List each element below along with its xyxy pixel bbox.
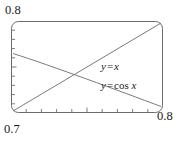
x-axis-tick-marks	[26, 108, 148, 113]
y-axis-max-label: 0.8	[5, 4, 21, 17]
plot-screenshot: 0.8 0.7 0.8	[0, 0, 181, 143]
plot-area	[11, 21, 163, 113]
curve-label-yx-operator: =	[106, 60, 114, 72]
curve-label-ycos-function: cos	[114, 79, 129, 91]
curve-label-y-equals-cos-x: y=cos x	[101, 80, 136, 91]
y-axis-tick-marks	[12, 30, 17, 104]
curve-label-yx-expression: x	[114, 60, 119, 72]
curve-label-ycos-expression: x	[132, 79, 137, 91]
curve-label-y-equals-x: y=x	[101, 61, 119, 72]
curve-label-ycos-operator: =	[106, 79, 114, 91]
curve-y-equals-cos-x	[13, 54, 161, 107]
y-axis-min-label: 0.7	[4, 123, 20, 136]
plot-canvas	[11, 21, 163, 113]
